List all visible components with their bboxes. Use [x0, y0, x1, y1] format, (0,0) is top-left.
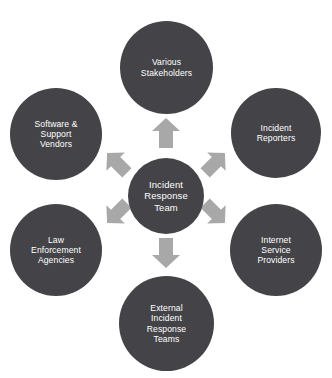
node-label: Incident Response Team: [138, 179, 194, 213]
arrow-down-right-icon: [200, 198, 230, 228]
node-incident-response-team: Incident Response Team: [128, 158, 204, 234]
node-incident-reporters: Incident Reporters: [231, 88, 321, 178]
arrow-up-left-icon: [102, 148, 132, 178]
arrow-down-icon: [152, 238, 180, 268]
arrow-down-left-icon: [102, 198, 132, 228]
node-label: External Incident Response Teams: [141, 303, 193, 344]
incident-response-diagram: Various Stakeholders Incident Reporters …: [0, 0, 332, 378]
node-law-enforcement-agencies: Law Enforcement Agencies: [10, 204, 102, 296]
node-internet-service-providers: Internet Service Providers: [230, 204, 322, 296]
node-label: Incident Reporters: [251, 123, 302, 143]
node-external-incident-response-teams: External Incident Response Teams: [119, 276, 214, 371]
node-label: Various Stakeholders: [135, 57, 198, 77]
node-various-stakeholders: Various Stakeholders: [120, 21, 213, 114]
arrow-up-right-icon: [200, 148, 230, 178]
node-label: Internet Service Providers: [251, 235, 300, 265]
node-label: Software & Support Vendors: [28, 119, 83, 149]
node-label: Law Enforcement Agencies: [25, 235, 87, 265]
arrow-up-icon: [152, 118, 180, 148]
node-software-support-vendors: Software & Support Vendors: [10, 88, 102, 180]
